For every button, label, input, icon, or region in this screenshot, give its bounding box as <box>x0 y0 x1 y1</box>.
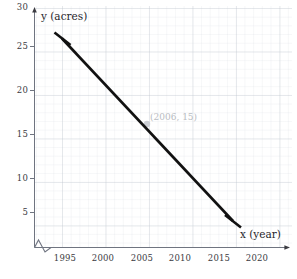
left-endpoint-cap <box>55 33 71 46</box>
y-axis-arrow-icon <box>32 7 37 13</box>
x-tick-label-2005: 2005 <box>127 253 157 263</box>
x-axis-title: x (year) <box>240 228 281 240</box>
y-tick-label-15: 15 <box>4 129 28 139</box>
x-tick-label-1995: 1995 <box>50 253 80 263</box>
x-tick-label-2020: 2020 <box>242 253 272 263</box>
y-tick-label-30: 30 <box>4 2 28 12</box>
right-endpoint-cap <box>225 215 241 228</box>
y-tick-label-20: 20 <box>4 85 28 95</box>
axis-break-icon <box>35 240 52 252</box>
y-tick-label-25: 25 <box>4 41 28 51</box>
y-axis <box>32 7 37 248</box>
midpoint-annotation-label: (2006, 15) <box>150 112 197 122</box>
line-chart: 30 25 20 15 10 5 1995 2000 2005 2010 201… <box>0 0 297 279</box>
y-axis-title: y (acres) <box>41 10 87 22</box>
x-tick-label-2015: 2015 <box>204 253 234 263</box>
x-axis <box>35 245 291 250</box>
y-tick-marks <box>30 47 35 213</box>
x-tick-label-2010: 2010 <box>165 253 195 263</box>
x-axis-arrow-icon <box>284 245 290 250</box>
x-tick-label-2000: 2000 <box>88 253 118 263</box>
data-line-segment <box>62 39 233 222</box>
y-tick-label-5: 5 <box>4 207 28 217</box>
y-tick-label-10: 10 <box>4 173 28 183</box>
